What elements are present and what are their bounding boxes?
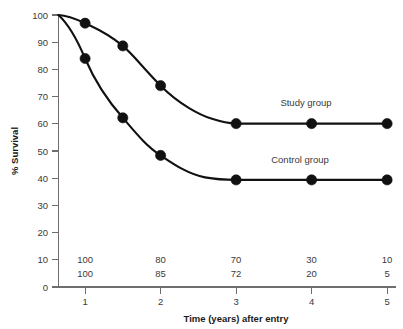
survival-chart: 100 90 80 70 60 50 40 30 20 10 0 [0, 0, 403, 329]
at-risk-number: 10 [382, 254, 393, 265]
data-point [156, 150, 166, 160]
series-label-study-group: Study group [280, 97, 331, 108]
chart-canvas: 100 90 80 70 60 50 40 30 20 10 0 [0, 0, 403, 329]
at-risk-number: 85 [155, 268, 166, 279]
data-point [118, 41, 128, 51]
x-tick-label: 5 [384, 296, 389, 307]
data-point [118, 113, 128, 123]
series-line-study-group [59, 15, 388, 124]
at-risk-number: 100 [77, 268, 93, 279]
y-tick-70: 70 [37, 91, 58, 102]
data-point [156, 81, 166, 91]
at-risk-row-study: 100 80 70 30 10 [77, 254, 392, 265]
x-tick-5: 5 [384, 287, 389, 307]
y-tick-label: 90 [37, 37, 48, 48]
y-tick-label: 0 [43, 282, 48, 293]
at-risk-number: 70 [231, 254, 242, 265]
y-tick-label: 100 [32, 10, 48, 21]
data-point [307, 175, 317, 185]
x-tick-label: 4 [309, 296, 314, 307]
axes-group [59, 15, 397, 287]
y-tick-100: 100 [32, 10, 58, 21]
y-tick-60: 60 [37, 118, 58, 129]
at-risk-number: 5 [384, 268, 389, 279]
data-point [80, 53, 90, 63]
data-point [80, 18, 90, 28]
x-tick-label: 1 [82, 296, 87, 307]
y-tick-0: 0 [43, 282, 59, 293]
y-tick-label: 70 [37, 91, 48, 102]
x-axis-ticks: 1 2 3 4 5 [82, 287, 389, 307]
x-tick-4: 4 [309, 287, 314, 307]
y-tick-label: 50 [37, 146, 48, 157]
data-point [382, 175, 392, 185]
series-control-group: Control group [59, 15, 393, 185]
y-tick-80: 80 [37, 64, 58, 75]
y-axis-title: % Survival [9, 127, 20, 175]
at-risk-number: 72 [231, 268, 242, 279]
y-tick-label: 10 [37, 254, 48, 265]
x-tick-1: 1 [82, 287, 87, 307]
at-risk-number: 80 [155, 254, 166, 265]
x-axis-title: Time (years) after entry [184, 313, 290, 324]
y-tick-20: 20 [37, 227, 58, 238]
at-risk-number: 100 [77, 254, 93, 265]
x-tick-label: 3 [233, 296, 238, 307]
series-study-group: Study group [59, 15, 393, 129]
y-tick-30: 30 [37, 200, 58, 211]
y-axis-ticks: 100 90 80 70 60 50 40 30 20 10 0 [32, 10, 58, 293]
at-risk-number: 30 [306, 254, 317, 265]
data-point [231, 119, 241, 129]
y-tick-label: 80 [37, 64, 48, 75]
y-tick-label: 30 [37, 200, 48, 211]
y-tick-label: 40 [37, 173, 48, 184]
data-point [307, 119, 317, 129]
y-tick-50: 50 [37, 146, 58, 157]
y-tick-label: 60 [37, 118, 48, 129]
y-tick-10: 10 [37, 254, 58, 265]
x-tick-label: 2 [158, 296, 163, 307]
y-tick-label: 20 [37, 227, 48, 238]
y-tick-40: 40 [37, 173, 58, 184]
at-risk-row-control: 100 85 72 20 5 [77, 268, 390, 279]
at-risk-number: 20 [306, 268, 317, 279]
x-tick-2: 2 [158, 287, 163, 307]
data-point [382, 119, 392, 129]
data-point [231, 175, 241, 185]
series-label-control-group: Control group [271, 154, 329, 165]
y-tick-90: 90 [37, 37, 58, 48]
series-line-control-group [59, 15, 388, 180]
x-tick-3: 3 [233, 287, 238, 307]
